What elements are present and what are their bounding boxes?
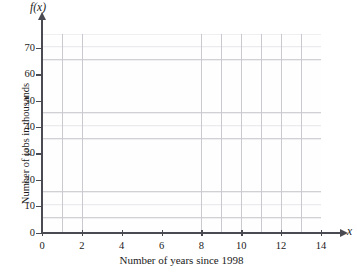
chart-figure: 706050403020100 02468101214 f(x) x Numbe… bbox=[0, 0, 357, 273]
x-axis-tick-mark bbox=[201, 230, 202, 236]
x-axis-tick-label: 2 bbox=[79, 241, 84, 252]
y-axis-line bbox=[41, 18, 43, 233]
y-axis-tick-mark bbox=[36, 180, 42, 181]
x-axis-tick-mark bbox=[162, 230, 163, 236]
x-axis-tick-label: 12 bbox=[276, 241, 287, 252]
y-axis-tick-label: 0 bbox=[30, 228, 35, 239]
x-axis-title: Number of years since 1998 bbox=[42, 254, 321, 266]
x-axis-tick-mark bbox=[82, 230, 83, 236]
y-axis-tick-mark bbox=[36, 153, 42, 154]
x-axis-tick-mark bbox=[321, 230, 322, 236]
x-axis-tick-label: 0 bbox=[39, 241, 44, 252]
y-axis-tick-mark bbox=[36, 206, 42, 207]
y-axis-function-label: f(x) bbox=[30, 1, 46, 13]
x-axis-tick-label: 14 bbox=[316, 241, 327, 252]
x-axis-line bbox=[41, 232, 344, 234]
x-axis-tick-label: 8 bbox=[199, 241, 204, 252]
x-axis-tick-mark bbox=[42, 230, 43, 236]
x-axis-variable-label: x bbox=[347, 225, 352, 237]
x-axis-tick-label: 6 bbox=[159, 241, 164, 252]
plot-grid-area bbox=[42, 34, 321, 233]
x-axis-tick-label: 4 bbox=[119, 241, 124, 252]
y-axis-title: Number of jobs in thousands bbox=[20, 49, 31, 239]
x-axis-tick-label: 10 bbox=[236, 241, 247, 252]
y-axis-arrowhead-icon bbox=[38, 12, 46, 20]
y-axis-tick-mark bbox=[36, 74, 42, 75]
y-axis-tick-mark bbox=[36, 127, 42, 128]
x-axis-tick-mark bbox=[281, 230, 282, 236]
x-axis-tick-mark bbox=[241, 230, 242, 236]
y-axis-tick-mark bbox=[36, 48, 42, 49]
y-axis-tick-mark bbox=[36, 101, 42, 102]
x-axis-tick-mark bbox=[122, 230, 123, 236]
